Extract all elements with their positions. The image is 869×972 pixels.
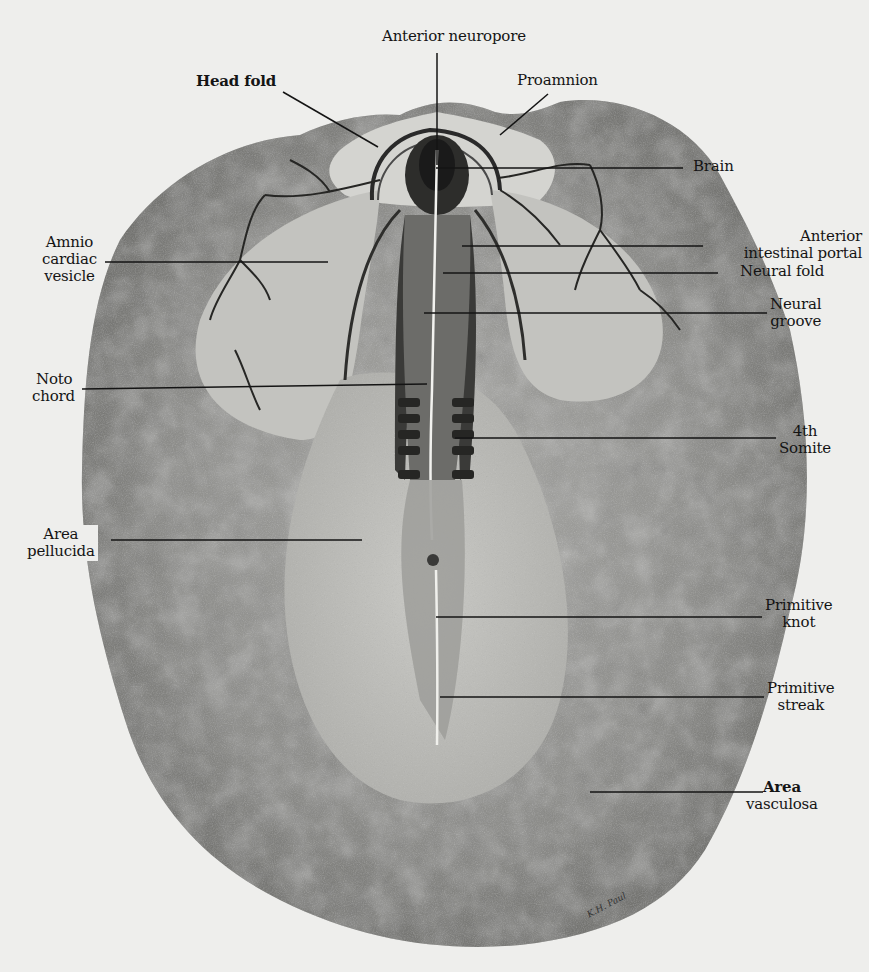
label-primitive-knot: Primitive knot xyxy=(765,597,832,631)
label-head-fold: Head fold xyxy=(196,73,276,90)
label-proamnion: Proamnion xyxy=(517,72,598,89)
label-neural-fold: Neural fold xyxy=(740,263,824,280)
label-fourth-somite: 4th Somite xyxy=(779,423,831,457)
label-notochord: Noto chord xyxy=(32,371,75,405)
label-neural-groove: Neural groove xyxy=(770,296,821,330)
label-anterior-intestinal-portal: Anterior intestinal portal xyxy=(706,228,862,262)
label-area-pellucida: Area pellucida xyxy=(24,525,98,561)
embryo-illustration xyxy=(0,0,869,972)
label-brain: Brain xyxy=(693,158,734,175)
label-amnio-cardiac-vesicle: Amnio cardiac vesicle xyxy=(42,234,97,285)
label-primitive-streak: Primitive streak xyxy=(767,680,834,714)
label-anterior-neuropore: Anterior neuropore xyxy=(382,28,526,45)
label-area-vasculosa: Area vasculosa xyxy=(746,779,818,813)
